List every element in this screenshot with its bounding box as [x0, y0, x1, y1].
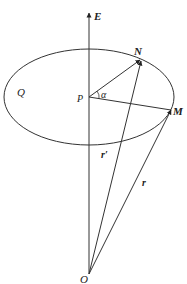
label-n: N: [133, 45, 143, 57]
diagram-canvas: E Q P N M O α r′ r: [0, 0, 187, 284]
label-e: E: [93, 10, 101, 22]
label-r: r: [142, 177, 146, 188]
vector-r-prime: [89, 61, 141, 274]
label-p: P: [76, 93, 83, 104]
angle-arc: [97, 91, 99, 99]
label-alpha: α: [101, 89, 107, 100]
label-r-prime: r′: [101, 149, 108, 160]
label-o: O: [80, 273, 88, 284]
vector-r: [89, 110, 171, 274]
label-q: Q: [17, 86, 25, 98]
vector-pn: [89, 60, 140, 97]
label-m: M: [172, 105, 184, 117]
